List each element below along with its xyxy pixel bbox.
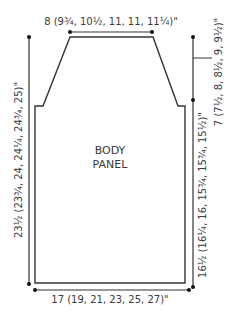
side-length-label: 16½ (16¼, 16, 15¾, 15¾, 15½)": [197, 112, 208, 278]
body-panel-schematic: 8 (9¾, 10½, 11, 11, 11¼)" 23½ (23¾, 24, …: [0, 0, 237, 316]
armhole-depth-dimension: [191, 35, 212, 100]
total-length-label: 23½ (23¾, 24, 24¼, 24¾, 25)": [13, 82, 24, 238]
panel-label-line1: BODY: [95, 144, 126, 157]
armhole-depth-label: 7 (7½, 8, 8½, 9, 9½)": [213, 18, 224, 126]
bottom-width-dimension: [33, 288, 191, 292]
side-length-dimension: [191, 98, 195, 289]
top-width-label: 8 (9¾, 10½, 11, 11, 11¼)": [44, 16, 178, 27]
top-width-dimension: [68, 30, 154, 34]
total-length-dimension: [27, 35, 31, 286]
bottom-width-label: 17 (19, 21, 23, 25, 27)": [51, 294, 168, 305]
panel-label-line2: PANEL: [93, 158, 129, 171]
